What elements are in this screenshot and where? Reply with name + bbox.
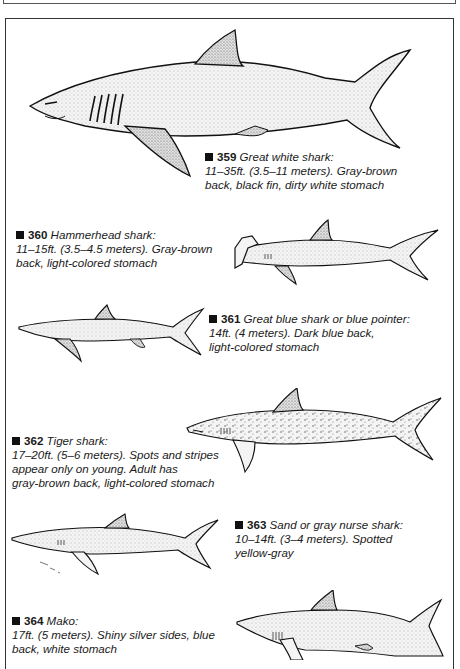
species-name: Mako:	[47, 614, 79, 627]
caption-line: 17ft. (5 meters). Shiny silver sides, bl…	[12, 628, 215, 642]
bullet-square-icon	[12, 437, 20, 445]
bullet-square-icon	[205, 153, 213, 161]
caption-mako-shark: 364 Mako: 17ft. (5 meters). Shiny silver…	[12, 614, 215, 656]
caption-great-white-shark: 359 Great white shark: 11–35ft. (3.5–11 …	[205, 150, 397, 192]
entry-number: 362	[24, 434, 43, 447]
caption-line: 17–20ft. (5–6 meters). Spots and stripes	[12, 448, 219, 462]
caption-line: back, black fin, dirty white stomach	[205, 178, 397, 192]
species-name: Great blue shark or blue pointer:	[244, 312, 410, 325]
bullet-square-icon	[235, 521, 243, 529]
entry-number: 363	[247, 518, 266, 531]
entry-number: 364	[24, 614, 43, 627]
entry-number: 359	[217, 150, 236, 163]
caption-line: yellow-gray	[235, 546, 403, 560]
hammerhead-shark-illustration-icon	[230, 218, 445, 288]
caption-heading: 363 Sand or gray nurse shark:	[235, 518, 403, 532]
caption-line: 10–14ft. (3–4 meters). Spotted	[235, 532, 403, 546]
sand-shark-illustration-icon	[10, 510, 222, 580]
species-name: Hammerhead shark:	[51, 228, 156, 241]
caption-blue-shark: 361 Great blue shark or blue pointer: 14…	[209, 312, 410, 354]
caption-line: light-colored stomach	[209, 340, 410, 354]
caption-heading: 362 Tiger shark:	[12, 434, 219, 448]
bullet-square-icon	[209, 315, 217, 323]
entry-number: 360	[28, 228, 47, 241]
caption-sand-shark: 363 Sand or gray nurse shark: 10–14ft. (…	[235, 518, 403, 560]
tiger-shark-illustration-icon	[183, 388, 445, 478]
caption-line: gray-brown back, light-colored stomach	[12, 476, 219, 490]
caption-hammerhead-shark: 360 Hammerhead shark: 11–15ft. (3.5–4.5 …	[16, 228, 212, 270]
caption-line: 11–15ft. (3.5–4.5 meters). Gray-brown	[16, 242, 212, 256]
caption-tiger-shark: 362 Tiger shark: 17–20ft. (5–6 meters). …	[12, 434, 219, 490]
entry-number: 361	[221, 312, 240, 325]
caption-line: appear only on young. Adult has	[12, 462, 219, 476]
caption-line: 14ft. (4 meters). Dark blue back,	[209, 326, 410, 340]
caption-heading: 361 Great blue shark or blue pointer:	[209, 312, 410, 326]
previous-panel-frame	[3, 0, 456, 4]
caption-heading: 364 Mako:	[12, 614, 215, 628]
caption-heading: 360 Hammerhead shark:	[16, 228, 212, 242]
bullet-square-icon	[16, 231, 24, 239]
caption-heading: 359 Great white shark:	[205, 150, 397, 164]
species-name: Sand or gray nurse shark:	[270, 518, 403, 531]
mako-shark-illustration-icon	[235, 590, 450, 660]
caption-line: 11–35ft. (3.5–11 meters). Gray-brown	[205, 164, 397, 178]
blue-shark-illustration-icon	[15, 303, 205, 363]
species-name: Great white shark:	[240, 150, 334, 163]
bullet-square-icon	[12, 617, 20, 625]
caption-line: back, light-colored stomach	[16, 256, 212, 270]
caption-line: back, white stomach	[12, 642, 215, 656]
species-name: Tiger shark:	[47, 434, 108, 447]
